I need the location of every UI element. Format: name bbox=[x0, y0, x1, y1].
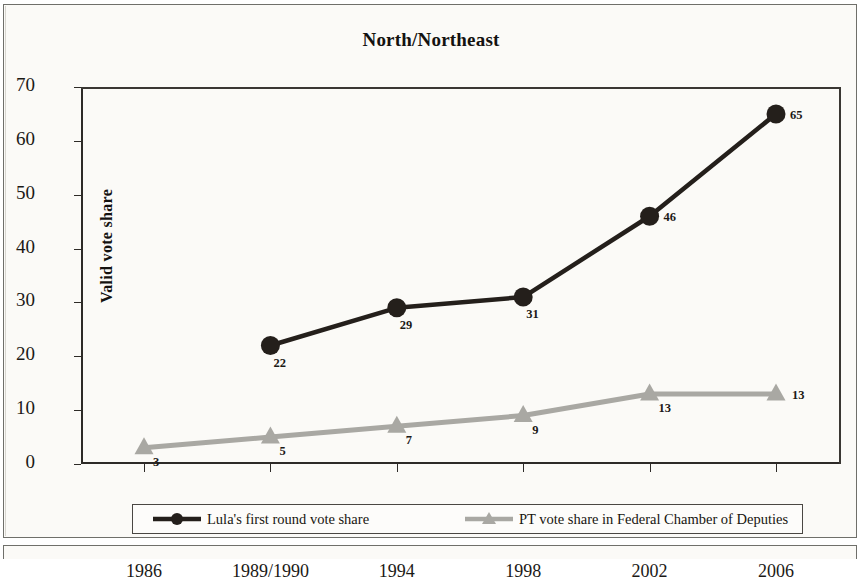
y-tick-mark bbox=[74, 87, 81, 88]
page-bottom-strip bbox=[3, 545, 857, 559]
y-tick-mark bbox=[74, 356, 81, 357]
chart-plot-area: Valid vote share 010203040506070 1986198… bbox=[81, 87, 841, 464]
y-tick-mark bbox=[74, 410, 81, 411]
x-tick-mark bbox=[776, 464, 777, 472]
data-point-marker bbox=[514, 288, 533, 307]
chart-legend: Lula's first round vote sharePT vote sha… bbox=[132, 504, 803, 534]
y-tick-label: 10 bbox=[0, 397, 35, 419]
data-point-marker bbox=[640, 207, 659, 226]
data-point-label: 29 bbox=[400, 318, 413, 333]
data-point-label: 13 bbox=[659, 401, 672, 416]
y-tick-label: 70 bbox=[0, 74, 35, 96]
legend-circle-marker-icon bbox=[151, 511, 203, 527]
y-tick-label: 30 bbox=[0, 289, 35, 311]
x-tick-mark bbox=[270, 464, 271, 472]
y-tick-mark bbox=[74, 302, 81, 303]
x-tick-mark bbox=[523, 464, 524, 472]
series-line bbox=[270, 114, 776, 346]
y-tick-mark bbox=[74, 195, 81, 196]
legend-entry[interactable]: Lula's first round vote share bbox=[151, 505, 369, 533]
data-point-label: 3 bbox=[153, 455, 159, 470]
y-tick-label: 50 bbox=[0, 182, 35, 204]
legend-label: Lula's first round vote share bbox=[207, 511, 369, 528]
data-point-label: 5 bbox=[279, 444, 285, 459]
x-tick-mark bbox=[397, 464, 398, 472]
y-tick-mark bbox=[74, 464, 81, 465]
data-point-marker bbox=[261, 336, 280, 355]
legend-label: PT vote share in Federal Chamber of Depu… bbox=[519, 511, 788, 528]
data-point-marker bbox=[767, 104, 786, 123]
data-point-label: 9 bbox=[532, 423, 538, 438]
y-tick-label: 20 bbox=[0, 343, 35, 365]
data-point-label: 22 bbox=[273, 356, 286, 371]
y-tick-label: 40 bbox=[0, 236, 35, 258]
data-point-label: 46 bbox=[664, 210, 677, 225]
data-point-label: 65 bbox=[790, 108, 803, 123]
x-tick-mark bbox=[650, 464, 651, 472]
x-tick-label: 2006 bbox=[696, 561, 856, 581]
data-point-label: 31 bbox=[526, 307, 539, 322]
chart-title: North/Northeast bbox=[0, 29, 862, 51]
x-tick-mark bbox=[144, 464, 145, 472]
data-point-label: 7 bbox=[406, 433, 412, 448]
data-point-marker bbox=[387, 298, 406, 317]
series-line bbox=[144, 394, 776, 448]
y-tick-mark bbox=[74, 249, 81, 250]
y-tick-label: 0 bbox=[0, 451, 35, 473]
data-point-label: 13 bbox=[792, 388, 805, 403]
legend-entry[interactable]: PT vote share in Federal Chamber of Depu… bbox=[463, 505, 788, 533]
legend-triangle-marker-icon bbox=[463, 511, 515, 527]
series-lines bbox=[81, 87, 841, 464]
y-tick-label: 60 bbox=[0, 128, 35, 150]
y-tick-mark bbox=[74, 141, 81, 142]
